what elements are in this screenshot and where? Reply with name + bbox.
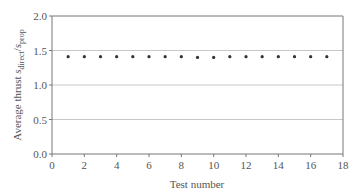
data-point: [99, 55, 102, 58]
y-axis-title-main: Average thrust: [11, 74, 23, 141]
scatter-chart: 0.00.51.01.52.0 024681012141618 Test num…: [0, 0, 361, 194]
data-point: [277, 55, 280, 58]
x-tick-label: 2: [82, 159, 88, 171]
data-point: [131, 55, 134, 58]
x-tick-label: 16: [305, 159, 317, 171]
x-tick-label: 14: [273, 159, 285, 171]
y-tick-label: 0.5: [33, 114, 47, 126]
data-point: [293, 55, 296, 58]
y-axis-ticks: 0.00.51.01.52.0: [33, 10, 52, 160]
data-point: [212, 56, 215, 59]
y-axis-title-sub2: prop: [17, 29, 26, 44]
data-point: [115, 55, 118, 58]
y-tick-label: 0.0: [33, 148, 47, 160]
data-point: [180, 55, 183, 58]
data-point: [196, 56, 199, 59]
data-points: [67, 55, 329, 59]
data-point: [325, 55, 328, 58]
data-point: [164, 55, 167, 58]
x-tick-label: 4: [114, 159, 120, 171]
y-tick-label: 2.0: [33, 10, 47, 22]
y-tick-label: 1.5: [33, 45, 47, 57]
data-point: [67, 55, 70, 58]
x-tick-label: 8: [179, 159, 185, 171]
x-tick-label: 0: [49, 159, 55, 171]
x-tick-label: 18: [338, 159, 350, 171]
x-axis-ticks: 024681012141618: [49, 154, 349, 171]
y-tick-label: 1.0: [33, 79, 47, 91]
data-point: [309, 55, 312, 58]
data-point: [83, 55, 86, 58]
x-axis-title: Test number: [170, 178, 225, 190]
x-tick-label: 10: [208, 159, 220, 171]
y-axis-title: Average thrust sdirect/sprop: [11, 29, 26, 141]
data-point: [261, 55, 264, 58]
data-point: [147, 55, 150, 58]
gridlines: [52, 16, 343, 120]
data-point: [228, 55, 231, 58]
x-tick-label: 12: [241, 159, 252, 171]
y-axis-title-sub1: direct: [17, 50, 26, 69]
data-point: [244, 55, 247, 58]
x-tick-label: 6: [146, 159, 152, 171]
